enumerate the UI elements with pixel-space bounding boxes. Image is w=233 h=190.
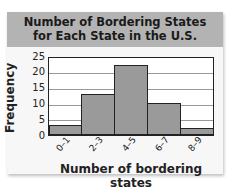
plot-area <box>48 57 214 136</box>
y-tick-5: 5 <box>27 114 45 125</box>
y-tick-10: 10 <box>27 98 45 109</box>
bar-2-3 <box>81 94 115 135</box>
x-axis-label: Number of bordering states <box>48 162 214 190</box>
y-axis-label: Frequency <box>3 63 17 133</box>
bar-6-7 <box>147 103 181 135</box>
y-tick-20: 20 <box>27 66 45 77</box>
y-tick-0: 0 <box>27 130 45 141</box>
chart-title-line-1: Number of Bordering States <box>7 15 223 29</box>
chart-title: Number of Bordering States for Each Stat… <box>7 12 223 47</box>
y-tick-25: 25 <box>27 51 45 62</box>
bar-4-5 <box>114 65 148 135</box>
y-tick-15: 15 <box>27 82 45 93</box>
chart-title-line-2: for Each State in the U.S. <box>7 29 223 43</box>
